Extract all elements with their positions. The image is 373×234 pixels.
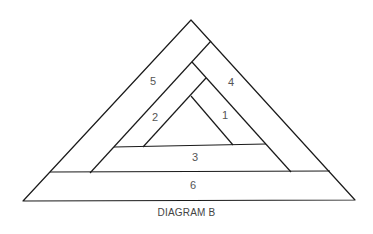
- diagram-caption: DIAGRAM B: [0, 207, 373, 218]
- triangle-diagram: [0, 0, 373, 234]
- region-label-2: 2: [152, 111, 158, 123]
- band-3-top: [114, 144, 266, 147]
- region-label-4: 4: [228, 76, 234, 88]
- region-label-5: 5: [150, 75, 156, 87]
- region-label-1: 1: [222, 109, 228, 121]
- band-4-inner-edge: [192, 62, 291, 172]
- region-label-6: 6: [190, 179, 196, 191]
- outer-triangle: [23, 20, 355, 201]
- region-label-3: 3: [192, 151, 198, 163]
